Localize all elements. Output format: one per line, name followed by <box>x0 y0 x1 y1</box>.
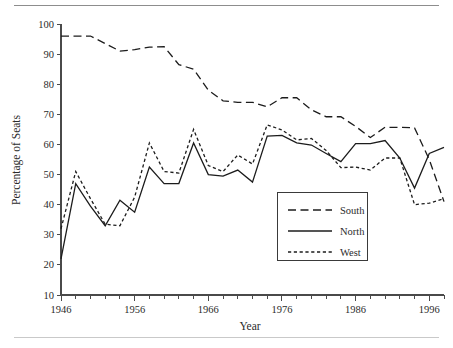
x-tick-label: 1946 <box>51 304 72 315</box>
axis-lines <box>61 24 444 295</box>
x-tick-label: 1986 <box>345 304 366 315</box>
x-axis-ticks: 194619561966197619861996 <box>51 295 445 315</box>
legend-label-north: North <box>340 226 365 237</box>
series-line-north <box>61 135 444 258</box>
x-tick-label: 1996 <box>419 304 440 315</box>
y-tick-label: 20 <box>44 259 55 270</box>
y-tick-label: 100 <box>38 19 54 30</box>
x-tick-label: 1976 <box>271 304 292 315</box>
line-chart: 102030405060708090100 194619561966197619… <box>0 0 453 348</box>
y-tick-label: 40 <box>44 199 55 210</box>
legend-label-west: West <box>340 247 361 258</box>
x-axis-title: Year <box>239 320 260 332</box>
legend-label-south: South <box>340 205 365 216</box>
series-line-west <box>61 125 444 229</box>
y-tick-label: 80 <box>44 79 55 90</box>
x-tick-label: 1956 <box>124 304 145 315</box>
y-tick-label: 50 <box>44 169 55 180</box>
y-tick-label: 30 <box>44 229 55 240</box>
y-tick-label: 10 <box>44 290 55 301</box>
x-tick-label: 1966 <box>198 304 219 315</box>
top-divider-rule <box>14 5 439 6</box>
chart-legend: SouthNorthWest <box>277 192 367 260</box>
series-line-south <box>61 36 444 202</box>
data-series-group <box>61 36 444 259</box>
y-axis-ticks: 102030405060708090100 <box>38 19 61 301</box>
y-tick-label: 90 <box>44 49 55 60</box>
bottom-divider-rule <box>14 337 439 338</box>
figure-container: 102030405060708090100 194619561966197619… <box>0 0 453 348</box>
y-tick-label: 60 <box>44 139 55 150</box>
y-axis-title: Percentage of Seats <box>10 114 23 205</box>
y-tick-label: 70 <box>44 109 55 120</box>
